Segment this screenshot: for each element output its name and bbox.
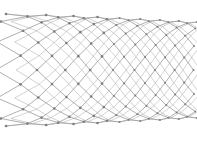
bond-lines [0,14,197,126]
atom-nodes [0,13,197,128]
carbon-nanotube-diagram [0,0,197,143]
